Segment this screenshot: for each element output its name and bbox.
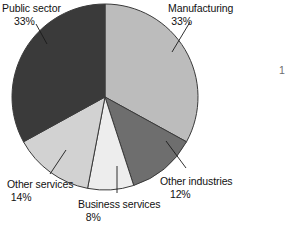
pie-label-public-sector-name: Public sector: [2, 2, 61, 15]
pie-label-other-services-value: 14%: [7, 191, 73, 204]
pie-label-other-services-name: Other services: [7, 178, 73, 191]
pie-label-business-services-value: 8%: [78, 211, 160, 224]
pie-label-business-services: Business services 8%: [78, 198, 160, 223]
pie-label-other-industries-name: Other industries: [160, 175, 233, 188]
pie-label-manufacturing: Manufacturing 33%: [168, 2, 233, 27]
pie-label-business-services-name: Business services: [78, 198, 160, 211]
pie-label-other-services: Other services 14%: [7, 178, 73, 203]
pie-label-other-industries: Other industries 12%: [160, 175, 233, 200]
pie-label-other-industries-value: 12%: [160, 188, 233, 201]
pie-label-manufacturing-name: Manufacturing: [168, 2, 233, 15]
cropped-edge-glyph: 1: [279, 64, 286, 77]
pie-label-public-sector-value: 33%: [2, 15, 61, 28]
pie-label-public-sector: Public sector 33%: [2, 2, 61, 27]
pie-chart-figure: Public sector 33% Manufacturing 33% Othe…: [0, 0, 286, 230]
pie-label-manufacturing-value: 33%: [168, 15, 233, 28]
